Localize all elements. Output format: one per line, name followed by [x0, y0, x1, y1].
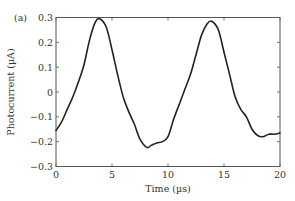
y-tick-label: −0.1 — [30, 111, 53, 122]
x-tick-label: 15 — [218, 169, 230, 180]
y-tick-label: 0 — [47, 87, 53, 98]
y-tick-label: −0.3 — [30, 161, 53, 172]
y-tick-label: 0.1 — [38, 62, 53, 73]
x-tick-label: 10 — [162, 169, 174, 180]
x-tick-label: 0 — [53, 169, 59, 180]
line-chart: (a) 051015200.30.20.10−0.1−0.2−0.3 Time … — [0, 0, 295, 201]
y-tick-label: 0.2 — [38, 37, 53, 48]
axis-ticks: 051015200.30.20.10−0.1−0.2−0.3 — [30, 12, 286, 180]
y-tick-label: 0.3 — [38, 12, 53, 23]
x-tick-label: 20 — [274, 169, 286, 180]
y-tick-label: −0.2 — [30, 136, 53, 147]
x-tick-label: 5 — [109, 169, 115, 180]
x-axis-label: Time (µs) — [145, 183, 191, 194]
y-axis-label: Photocurrent (µA) — [5, 48, 16, 135]
panel-label: (a) — [14, 12, 27, 23]
photocurrent-line — [56, 18, 280, 147]
